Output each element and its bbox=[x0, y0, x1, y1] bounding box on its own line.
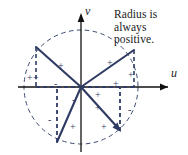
sign-q4-v-component: - bbox=[128, 105, 131, 115]
sign-q3-radius: + bbox=[70, 122, 76, 132]
vector-quadrant-3 bbox=[57, 87, 81, 142]
caption-line-1: Radius is bbox=[114, 8, 184, 21]
sign-q2-radius-b: + bbox=[33, 73, 39, 83]
sign-q1-axis-tick: + bbox=[95, 90, 101, 100]
figure-container: v u Radius is always positive. +++-++++-… bbox=[0, 0, 188, 155]
sign-q3-u-component: - bbox=[48, 115, 51, 125]
u-axis-arrowhead bbox=[160, 84, 168, 91]
sign-q4-radius: + bbox=[101, 122, 107, 132]
v-axis-arrowhead bbox=[78, 13, 85, 22]
caption-line-3: positive. bbox=[114, 33, 184, 46]
caption-radius-always-positive: Radius is always positive. bbox=[114, 8, 184, 46]
sign-q2-radius-a: + bbox=[27, 73, 33, 83]
sign-q3-v-component: - bbox=[72, 95, 75, 105]
sign-q2-v-component: + bbox=[58, 61, 64, 71]
caption-line-2: always bbox=[114, 21, 184, 34]
sign-q1-radius: + bbox=[128, 70, 134, 80]
sign-q1-v-component: + bbox=[107, 58, 113, 68]
sign-q1-u-component: + bbox=[113, 79, 119, 89]
u-axis-label: u bbox=[171, 66, 177, 81]
sign-q2-u-component: - bbox=[54, 79, 57, 89]
sign-q4-u-component: + bbox=[95, 103, 101, 113]
v-axis-label: v bbox=[85, 4, 90, 19]
vector-quadrant-1 bbox=[81, 50, 134, 87]
